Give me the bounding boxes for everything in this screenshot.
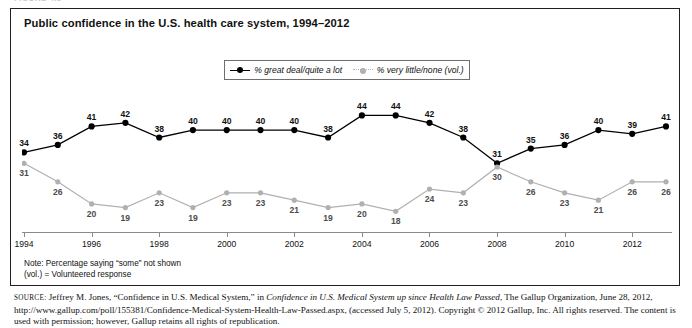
x-tick-label-2010: 2010 bbox=[555, 239, 574, 249]
note-line-1: Note: Percentage saying “some” not shown bbox=[24, 258, 181, 269]
legend-dot-series2-icon bbox=[360, 68, 366, 74]
data-label-series1-1995: 36 bbox=[53, 132, 63, 141]
x-tick-label-2000: 2000 bbox=[217, 239, 236, 249]
figure-number-stub: FIGURE 4.5 bbox=[14, 0, 84, 3]
data-label-series2-2007: 23 bbox=[458, 199, 468, 208]
data-label-series1-1999: 40 bbox=[188, 117, 198, 126]
legend-item-very-little: % very little/none (vol.) bbox=[353, 65, 464, 75]
data-label-series1-2007: 38 bbox=[458, 125, 468, 134]
data-label-series2-1997: 19 bbox=[121, 214, 131, 223]
x-tick-1998 bbox=[159, 232, 160, 237]
data-label-series2-2010: 23 bbox=[560, 199, 570, 208]
data-label-series2-2000: 23 bbox=[222, 199, 232, 208]
x-axis-line bbox=[22, 232, 672, 233]
source-citation: SOURCE: Jeffrey M. Jones, “Confidence in… bbox=[14, 292, 678, 328]
figure-container: FIGURE 4.5 Public confidence in the U.S.… bbox=[0, 0, 692, 328]
chart-notes: Note: Percentage saying “some” not shown… bbox=[24, 258, 181, 280]
data-label-series1-2004: 44 bbox=[357, 102, 367, 111]
x-tick-label-2002: 2002 bbox=[285, 239, 304, 249]
data-label-series2-2009: 26 bbox=[526, 188, 536, 197]
x-tick-2012 bbox=[632, 232, 633, 237]
data-label-series1-2013: 41 bbox=[661, 113, 671, 122]
data-label-series1-2001: 40 bbox=[256, 117, 266, 126]
data-label-series1-2000: 40 bbox=[222, 117, 232, 126]
x-tick-2006 bbox=[429, 232, 430, 237]
data-label-series1-2005: 44 bbox=[391, 102, 401, 111]
source-prefix: SOURCE: bbox=[14, 294, 46, 302]
data-label-series2-2012: 26 bbox=[627, 188, 637, 197]
data-label-series2-2006: 24 bbox=[425, 195, 435, 204]
data-label-series1-2009: 35 bbox=[526, 136, 536, 145]
x-tick-label-2004: 2004 bbox=[352, 239, 371, 249]
x-tick-1994 bbox=[24, 232, 25, 237]
x-tick-label-1994: 1994 bbox=[14, 239, 33, 249]
data-label-series2-1995: 26 bbox=[53, 188, 63, 197]
data-label-series1-2003: 38 bbox=[323, 125, 333, 134]
data-label-series1-1994: 34 bbox=[19, 139, 29, 148]
data-label-series2-1999: 19 bbox=[188, 214, 198, 223]
data-label-series2-2004: 20 bbox=[357, 210, 367, 219]
chart-title: Public confidence in the U.S. health car… bbox=[24, 17, 350, 29]
x-tick-1996 bbox=[92, 232, 93, 237]
data-label-series2-1998: 23 bbox=[154, 199, 164, 208]
x-tick-label-2008: 2008 bbox=[487, 239, 506, 249]
legend-label-series1: % great deal/quite a lot bbox=[254, 65, 342, 75]
data-label-series2-1994: 31 bbox=[19, 169, 29, 178]
data-label-series2-2011: 21 bbox=[594, 206, 604, 215]
data-label-series1-1996: 41 bbox=[87, 113, 97, 122]
x-tick-2000 bbox=[227, 232, 228, 237]
data-label-series1-2010: 36 bbox=[560, 132, 570, 141]
source-part-1: Jeffrey M. Jones, “Confidence in U.S. Me… bbox=[46, 292, 266, 302]
data-label-series1-2002: 40 bbox=[290, 117, 300, 126]
data-label-series2-2002: 21 bbox=[290, 206, 300, 215]
x-tick-2004 bbox=[362, 232, 363, 237]
legend-label-series2: % very little/none (vol.) bbox=[377, 65, 464, 75]
legend-line-series1-icon bbox=[230, 70, 250, 71]
x-tick-label-1998: 1998 bbox=[150, 239, 169, 249]
data-label-series2-2013: 26 bbox=[661, 188, 671, 197]
data-label-series2-2001: 23 bbox=[256, 199, 266, 208]
x-tick-label-1996: 1996 bbox=[82, 239, 101, 249]
data-label-series2-2005: 18 bbox=[391, 217, 401, 226]
data-label-series1-2008: 31 bbox=[492, 150, 502, 159]
data-label-series1-2011: 40 bbox=[594, 117, 604, 126]
data-label-series1-2006: 42 bbox=[425, 110, 435, 119]
series-lines bbox=[22, 96, 670, 232]
data-label-series1-2012: 39 bbox=[627, 121, 637, 130]
legend-dot-series1-icon bbox=[237, 67, 243, 73]
chart-legend: % great deal/quite a lot % very little/n… bbox=[224, 60, 470, 80]
x-tick-2010 bbox=[565, 232, 566, 237]
legend-line-series2-icon bbox=[353, 69, 373, 71]
data-label-series1-1997: 42 bbox=[121, 110, 131, 119]
plot-area: 3436414238404040403844444238313536403941… bbox=[22, 96, 670, 232]
x-tick-2008 bbox=[497, 232, 498, 237]
note-line-2: (vol.) = Volunteered response bbox=[24, 269, 181, 280]
data-label-series1-1998: 38 bbox=[154, 125, 164, 134]
legend-item-great-deal: % great deal/quite a lot bbox=[230, 65, 342, 75]
data-label-series2-2003: 19 bbox=[323, 214, 333, 223]
data-label-series2-1996: 20 bbox=[87, 210, 97, 219]
x-tick-label-2012: 2012 bbox=[623, 239, 642, 249]
x-tick-2002 bbox=[294, 232, 295, 237]
source-italic-title: Confidence in U.S. Medical System up sin… bbox=[266, 292, 500, 302]
data-label-series2-2008: 30 bbox=[492, 173, 502, 182]
x-tick-label-2006: 2006 bbox=[420, 239, 439, 249]
